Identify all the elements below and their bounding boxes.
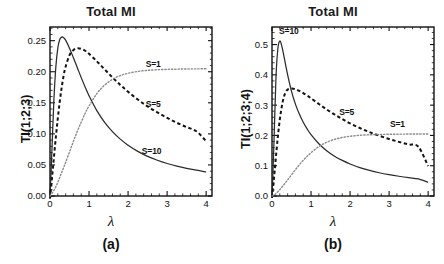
panel-b-y-axis-label: TI(1;2;3;4) [239, 59, 253, 179]
svg-text:4: 4 [425, 198, 430, 209]
panel-a-y-axis-label: TI(1;2;3) [19, 59, 33, 179]
svg-text:1: 1 [308, 198, 313, 209]
svg-text:0.1: 0.1 [255, 160, 268, 171]
svg-text:0.5: 0.5 [255, 39, 268, 50]
svg-text:2: 2 [125, 198, 130, 209]
series-label-s10-b: S=10 [279, 26, 299, 36]
curve-s5 [50, 48, 206, 198]
svg-text:0.4: 0.4 [255, 69, 268, 80]
series-label-s10-a: S=10 [142, 146, 162, 156]
series-label-s5-a: S=5 [146, 99, 161, 109]
svg-text:0.3: 0.3 [255, 100, 268, 111]
curve-s1 [50, 69, 206, 196]
svg-text:4: 4 [203, 198, 208, 209]
panel-a: Total MI 012340.000.050.100.150.200.25 S… [0, 0, 222, 264]
series-label-s5-b: S=5 [339, 107, 354, 117]
panel-b-x-axis-label: λ [222, 213, 444, 230]
svg-text:3: 3 [386, 198, 391, 209]
svg-text:0: 0 [47, 198, 52, 209]
svg-text:3: 3 [164, 198, 169, 209]
svg-text:0.2: 0.2 [255, 130, 268, 141]
svg-text:2: 2 [347, 198, 352, 209]
series-label-s1-a: S=1 [146, 59, 161, 69]
svg-text:0.25: 0.25 [28, 35, 47, 46]
series-label-s1-b: S=1 [390, 119, 405, 129]
panel-b-caption: (b) [222, 236, 444, 252]
figure-container: Total MI 012340.000.050.100.150.200.25 S… [0, 0, 444, 264]
svg-text:0.00: 0.00 [28, 190, 47, 201]
curve-s10 [50, 37, 206, 199]
panel-a-caption: (a) [0, 236, 222, 252]
svg-text:0.0: 0.0 [255, 190, 268, 201]
svg-text:0: 0 [269, 198, 274, 209]
svg-text:1: 1 [86, 198, 91, 209]
panel-a-x-axis-label: λ [0, 213, 222, 230]
panel-b: Total MI 012340.00.10.20.30.40.5 S=10 S=… [222, 0, 444, 264]
